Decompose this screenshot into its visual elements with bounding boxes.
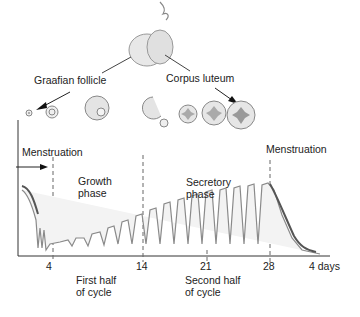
x-tick-4-days: 4 days — [309, 260, 340, 272]
label-corpus-luteum: Corpus luteum — [166, 72, 234, 84]
x-tick-4: 4 — [46, 260, 52, 272]
endometrium-curve — [22, 183, 320, 254]
diagram-canvas — [0, 0, 360, 317]
label-first-half: First half of cycle — [76, 274, 116, 298]
x-tick-21: 21 — [200, 260, 212, 272]
pointer-line-luteum — [165, 55, 190, 71]
label-menstruation-left: Menstruation — [22, 146, 83, 158]
menstruation-arrow-icon — [16, 164, 48, 170]
label-graafian-follicle: Graafian follicle — [34, 74, 106, 86]
label-growth-phase: Growth phase — [78, 175, 112, 199]
label-second-half: Second half of cycle — [185, 274, 240, 298]
x-tick-28: 28 — [263, 260, 275, 272]
follicle-sequence — [26, 96, 255, 129]
pointer-line-follicle — [102, 57, 131, 73]
label-menstruation-right: Menstruation — [266, 143, 327, 155]
label-secretory-phase: Secretory phase — [186, 176, 231, 200]
x-tick-14: 14 — [136, 260, 148, 272]
